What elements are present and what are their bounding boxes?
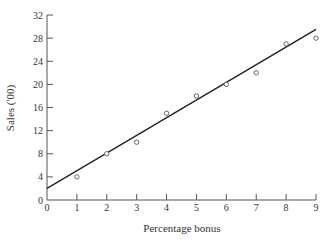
- x-tick-label: 9: [314, 202, 319, 213]
- x-tick-label: 7: [254, 202, 259, 213]
- y-tick-label: 0: [38, 195, 43, 206]
- y-tick-label: 16: [33, 102, 43, 113]
- x-tick-label: 8: [284, 202, 289, 213]
- y-tick-label: 4: [38, 171, 43, 182]
- data-point: [254, 71, 258, 75]
- x-tick-label: 5: [194, 202, 199, 213]
- data-point: [314, 36, 318, 40]
- x-tick-label: 3: [134, 202, 139, 213]
- x-tick-label: 4: [164, 202, 169, 213]
- x-axis-label: Percentage bonus: [143, 222, 220, 234]
- scatter-chart: 0123456789048121620242832 Percentage bon…: [0, 0, 333, 242]
- x-tick-label: 1: [74, 202, 79, 213]
- data-points: [75, 36, 319, 179]
- y-tick-label: 12: [33, 125, 43, 136]
- data-point: [134, 140, 138, 144]
- y-tick-label: 8: [38, 148, 43, 159]
- y-axis-label: Sales ('00): [4, 85, 17, 132]
- data-point: [105, 152, 109, 156]
- data-point: [75, 175, 79, 179]
- x-tick-label: 2: [104, 202, 109, 213]
- x-tick-label: 6: [224, 202, 229, 213]
- data-point: [194, 94, 198, 98]
- data-point: [284, 42, 288, 46]
- axes: 0123456789048121620242832: [33, 10, 319, 214]
- y-tick-label: 28: [33, 33, 43, 44]
- data-point: [164, 111, 168, 115]
- y-tick-label: 32: [33, 10, 43, 21]
- y-tick-label: 24: [33, 56, 43, 67]
- data-point: [224, 82, 228, 86]
- regression-line: [47, 29, 316, 188]
- y-tick-label: 20: [33, 79, 43, 90]
- x-tick-label: 0: [45, 202, 50, 213]
